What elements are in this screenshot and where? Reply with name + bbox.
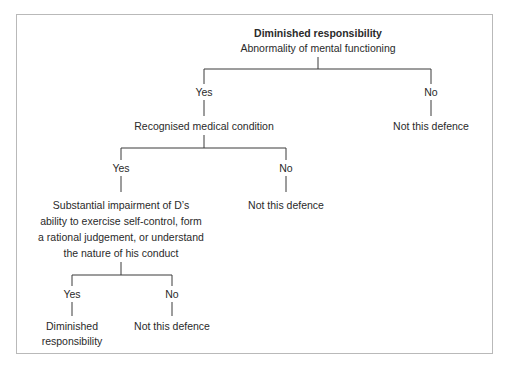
diagram-title: Diminished responsibility bbox=[254, 26, 382, 41]
level2-yes-node-line-3: a rational judgement, or understand bbox=[38, 230, 204, 245]
level3-no-label: No bbox=[165, 287, 178, 302]
level2-no-label: No bbox=[279, 161, 292, 176]
level2-no-node: Not this defence bbox=[248, 198, 324, 213]
level3-no-node: Not this defence bbox=[134, 319, 210, 334]
level2-yes-node-line-2: ability to exercise self-control, form bbox=[40, 214, 202, 229]
level1-yes-node: Recognised medical condition bbox=[134, 119, 274, 134]
level2-yes-node-line-4: the nature of his conduct bbox=[64, 246, 179, 261]
level3-yes-node-line-1: Diminished bbox=[46, 319, 98, 334]
level1-no-label: No bbox=[424, 85, 437, 100]
level2-yes-node-line-1: Substantial impairment of D’s bbox=[53, 198, 189, 213]
level1-yes-label: Yes bbox=[195, 85, 212, 100]
level1-no-node: Not this defence bbox=[393, 119, 469, 134]
root-question: Abnormality of mental functioning bbox=[240, 41, 395, 56]
level3-yes-label: Yes bbox=[63, 287, 80, 302]
level2-yes-label: Yes bbox=[112, 161, 129, 176]
level3-yes-node-line-2: responsibility bbox=[42, 334, 103, 349]
